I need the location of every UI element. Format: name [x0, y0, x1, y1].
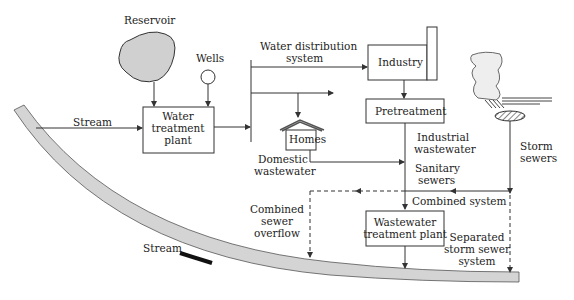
- water-distribution-line1: Water distribution: [260, 40, 357, 52]
- cso-line3: overflow: [254, 227, 300, 239]
- domestic-wastewater-line2: wastewater: [254, 165, 317, 177]
- industry-chimney: [427, 27, 437, 80]
- industrial-wastewater-line2: wastewater: [414, 143, 477, 155]
- wtp-line2: treatment: [151, 122, 205, 134]
- stream-in-label: Stream: [73, 116, 112, 128]
- wwtp-line1: Wastewater: [374, 216, 438, 228]
- storm-sewers-line2: sewers: [520, 152, 557, 164]
- wtp-line1: Water: [162, 110, 195, 122]
- industry-label: Industry: [378, 56, 423, 68]
- wwtp-line2: treatment plant: [363, 228, 448, 240]
- homes-roof: [280, 120, 324, 131]
- separated-storm-line2: storm sewer: [444, 243, 511, 255]
- storm-drain-icon: [495, 111, 525, 121]
- wtp-line3: plant: [164, 134, 192, 146]
- cso-line2: sewer: [261, 215, 294, 227]
- industrial-wastewater-line1: Industrial: [417, 131, 470, 143]
- cso-line1: Combined: [250, 203, 304, 215]
- water-cycle-diagram: Reservoir Wells Stream Water treatment p…: [0, 0, 574, 300]
- sanitary-sewers-line1: Sanitary: [415, 162, 460, 174]
- storm-cloud-icon: [471, 52, 552, 108]
- stream-flow-arrow-icon: [180, 253, 212, 263]
- separated-storm-line3: system: [458, 255, 495, 267]
- storm-sewers-line1: Storm: [520, 140, 553, 152]
- wells-label: Wells: [196, 52, 224, 64]
- water-distribution-line2: system: [286, 52, 323, 64]
- reservoir-icon: [119, 32, 175, 82]
- reservoir-label: Reservoir: [124, 14, 176, 26]
- sanitary-sewers-line2: sewers: [418, 174, 455, 186]
- combined-system-label: Combined system: [412, 195, 507, 207]
- well-icon: [201, 70, 215, 84]
- homes-label: Homes: [289, 133, 326, 145]
- domestic-wastewater-line1: Domestic: [258, 153, 308, 165]
- separated-storm-line1: Separated: [450, 231, 505, 243]
- stream-flow-label: Stream: [143, 242, 182, 254]
- pretreatment-label: Pretreatment: [375, 105, 447, 117]
